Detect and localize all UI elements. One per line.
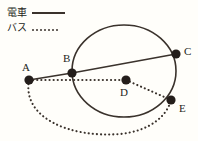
node-label-a: A: [22, 62, 30, 73]
bus-route-arc-a-e: [28, 80, 171, 135]
node-e-dot[interactable]: [166, 95, 175, 104]
dotted-line-icon: [32, 21, 65, 35]
node-label-c: C: [184, 46, 191, 57]
diagram-canvas: 電車 バス A B C D E: [0, 0, 198, 141]
legend: 電車 バス: [7, 6, 87, 36]
bus-route-d-e: [126, 80, 171, 100]
node-label-d: D: [120, 87, 128, 98]
legend-item-bus: バス: [7, 21, 87, 35]
train-route-line: [29, 54, 176, 80]
legend-item-train: 電車: [7, 6, 87, 20]
legend-label-train: 電車: [7, 8, 26, 18]
solid-line-icon: [32, 8, 65, 18]
legend-label-bus: バス: [7, 23, 26, 33]
node-label-e: E: [179, 103, 186, 114]
node-b-dot[interactable]: [67, 68, 76, 77]
node-label-b: B: [63, 53, 70, 64]
node-d-dot[interactable]: [121, 75, 130, 84]
node-c-dot[interactable]: [171, 49, 180, 58]
node-a-dot[interactable]: [24, 75, 33, 84]
